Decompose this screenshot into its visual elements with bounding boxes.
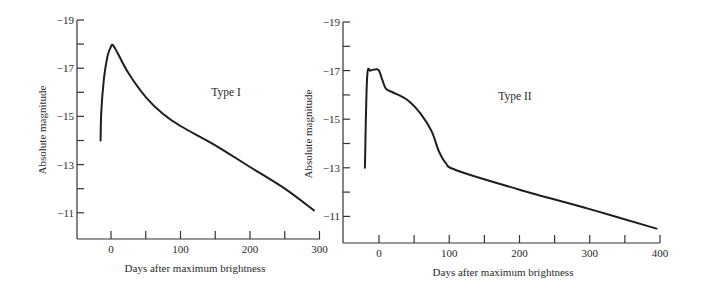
y-axis-title: Absolute magnitude [302, 89, 314, 178]
x-tick-label: 400 [652, 247, 669, 259]
y-tick-label: −11 [323, 210, 340, 222]
y-tick-label: −13 [323, 162, 341, 174]
y-tick-label: −13 [57, 159, 75, 171]
x-tick-label: 200 [511, 247, 528, 259]
light-curve-line [101, 45, 314, 211]
panel-label: Type I [211, 86, 241, 99]
x-tick-label: 300 [311, 243, 328, 255]
supernova-light-curves-figure: −19−17−15−13−110100200300Days after maxi… [0, 0, 703, 296]
x-tick-label: 100 [441, 247, 458, 259]
y-tick-label: −17 [323, 65, 341, 77]
x-axis-title: Days after maximum brightness [125, 262, 266, 274]
y-tick-label: −19 [323, 16, 341, 28]
y-axis-title: Absolute magnitude [36, 85, 48, 174]
y-tick-label: −17 [57, 62, 75, 74]
type-ii-light-curve-chart: −19−17−15−13−110100200300400Days after m… [302, 16, 669, 278]
type-i-light-curve-chart: −19−17−15−13−110100200300Days after maxi… [36, 14, 328, 274]
x-tick-label: 100 [172, 243, 189, 255]
x-axis-title: Days after maximum brightness [433, 266, 574, 278]
x-tick-label: 300 [582, 247, 599, 259]
x-tick-label: 0 [376, 247, 382, 259]
y-tick-label: −15 [323, 113, 341, 125]
x-tick-label: 0 [108, 243, 114, 255]
y-tick-label: −15 [57, 110, 75, 122]
y-tick-label: −11 [57, 207, 74, 219]
panel-label: Type II [498, 90, 532, 103]
y-tick-label: −19 [57, 14, 75, 26]
x-tick-label: 200 [242, 243, 259, 255]
